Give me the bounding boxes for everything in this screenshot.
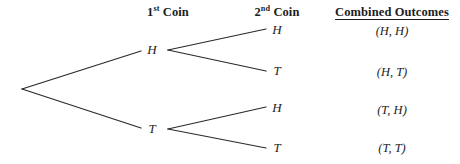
branch-group (22, 29, 266, 148)
node-label-level1-t: T (148, 121, 155, 137)
header-ordinal-suffix: nd (261, 4, 270, 13)
node-label-level2-tt: T (273, 140, 280, 156)
node-label-level1-h: H (147, 42, 156, 58)
branch-t-to-tt (168, 129, 266, 148)
branch-h-to-ht (168, 50, 266, 71)
outcome-ht: (H, T) (377, 65, 408, 80)
node-label-level2-ht: T (273, 63, 280, 79)
header-first-coin: 1st Coin (147, 5, 189, 20)
header-word: Coin (270, 5, 299, 19)
probability-tree-diagram: 1st Coin2nd CoinCombined Outcomes HTHTHT… (0, 0, 460, 164)
node-label-level2-hh: H (272, 22, 281, 38)
header-second-coin: 2nd Coin (255, 5, 300, 20)
branch-t-to-th (168, 107, 266, 129)
branch-root-to-h (22, 51, 141, 89)
outcome-hh: (H, H) (376, 24, 409, 39)
header-word: Coin (160, 5, 189, 19)
node-label-level2-th: H (272, 100, 281, 116)
outcome-tt: (T, T) (378, 141, 406, 156)
outcome-th: (T, H) (377, 103, 407, 118)
branch-root-to-t (22, 89, 141, 128)
header-combined-outcomes: Combined Outcomes (335, 5, 449, 20)
branch-h-to-hh (168, 29, 266, 50)
